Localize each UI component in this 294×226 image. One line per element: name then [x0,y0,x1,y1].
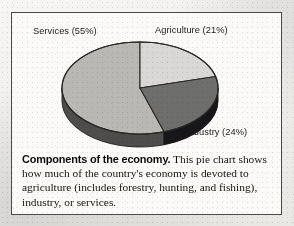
pie-label-industry: Industry (24%) [186,127,247,137]
pie-label-agriculture: Agriculture (21%) [155,25,228,35]
figure-caption: Components of the economy. This pie char… [22,152,272,209]
caption-title: Components of the economy. [22,153,170,165]
pie-chart: Services (55%) Agriculture (21%) Industr… [0,0,294,150]
pie-chart-graphic [0,0,294,150]
pie-label-services: Services (55%) [33,26,97,36]
figure-panel: Services (55%) Agriculture (21%) Industr… [0,0,294,226]
